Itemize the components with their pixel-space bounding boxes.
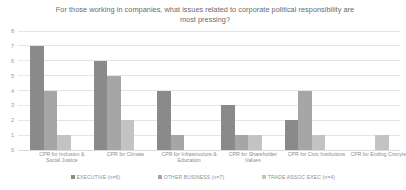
bar	[298, 91, 312, 151]
x-axis-label-line: CPR for Climate	[90, 151, 162, 157]
x-axis-category-label: CPR for ShareholderValues	[217, 151, 289, 164]
x-axis-category-label: CPR for Inclusion &Social Justice	[26, 151, 98, 164]
legend-label: EXECUTIVE (n=6)	[77, 174, 121, 180]
legend-item[interactable]: TRADE ASSOC EXEC (n=4)	[262, 174, 335, 180]
bar	[285, 120, 299, 150]
y-axis-tick-label: 2	[0, 117, 14, 123]
legend-item[interactable]: EXECUTIVE (n=6)	[71, 174, 120, 180]
chart-legend: EXECUTIVE (n=6)OTHER BUSINESS (n=7)TRADE…	[0, 174, 406, 180]
bar	[121, 120, 135, 150]
bar-group	[18, 31, 82, 150]
x-axis-category-label: CPR for Ending Cronyism	[344, 151, 406, 157]
x-axis-category-label: CPR for Infrastructure &Education	[153, 151, 225, 164]
chart-title: For those working in companies, what iss…	[55, 5, 355, 24]
plot-area	[18, 31, 400, 150]
bar	[312, 135, 326, 150]
x-axis-category-label: CPR for Climate	[90, 151, 162, 157]
bar	[235, 135, 249, 150]
y-axis: 012345678	[0, 31, 16, 150]
y-axis-tick-label: 0	[0, 147, 14, 153]
bar-group	[209, 31, 273, 150]
bar-group	[82, 31, 146, 150]
x-axis-label-line: CPR for Civic Institutions	[281, 151, 353, 157]
x-axis-label-line: Social Justice	[26, 157, 98, 163]
y-axis-tick-label: 6	[0, 58, 14, 64]
y-axis-tick-label: 7	[0, 43, 14, 49]
y-axis-tick-label: 1	[0, 132, 14, 138]
bar	[57, 135, 71, 150]
bar	[171, 135, 185, 150]
bar	[30, 46, 44, 150]
bar	[221, 105, 235, 150]
legend-label: OTHER BUSINESS (n=7)	[164, 174, 224, 180]
bar	[44, 91, 58, 151]
bar	[107, 76, 121, 150]
x-axis-label-line: Values	[217, 157, 289, 163]
legend-swatch-icon	[158, 175, 162, 179]
legend-swatch-icon	[71, 175, 75, 179]
bars-layer	[18, 31, 400, 150]
bar	[94, 61, 108, 150]
y-axis-tick-label: 8	[0, 28, 14, 34]
bar-group	[336, 31, 400, 150]
legend-item[interactable]: OTHER BUSINESS (n=7)	[158, 174, 224, 180]
chart-title-line-1: For those working in companies, what iss…	[56, 5, 297, 14]
legend-label: TRADE ASSOC EXEC (n=4)	[268, 174, 335, 180]
x-axis-label-line: CPR for Ending Cronyism	[344, 151, 406, 157]
legend-swatch-icon	[262, 175, 266, 179]
x-axis: CPR for Inclusion &Social JusticeCPR for…	[18, 151, 400, 171]
y-axis-tick-label: 4	[0, 88, 14, 94]
bar-group	[145, 31, 209, 150]
bar	[157, 91, 171, 151]
chart-container: For those working in companies, what iss…	[0, 0, 406, 190]
x-axis-label-line: Education	[153, 157, 225, 163]
bar	[248, 135, 262, 150]
x-axis-category-label: CPR for Civic Institutions	[281, 151, 353, 157]
bar-group	[273, 31, 337, 150]
y-axis-tick-label: 5	[0, 73, 14, 79]
bar	[375, 135, 389, 150]
y-axis-tick-label: 3	[0, 102, 14, 108]
